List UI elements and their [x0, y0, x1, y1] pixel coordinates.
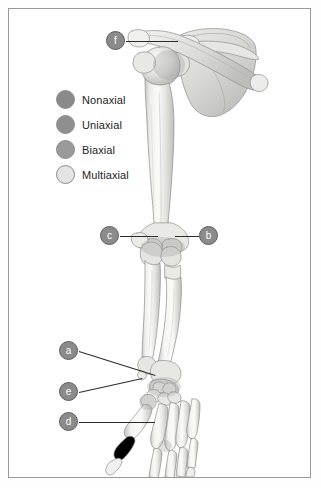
- callout-marker-d[interactable]: d: [59, 412, 78, 431]
- callout-marker-b[interactable]: b: [199, 226, 218, 245]
- legend-item-multiaxial: Multiaxial: [56, 165, 166, 184]
- legend-label-uniaxial: Uniaxial: [82, 119, 122, 131]
- leader-line-c: [120, 236, 158, 237]
- legend-swatch-uniaxial: [56, 115, 75, 134]
- legend-item-biaxial: Biaxial: [56, 140, 166, 159]
- legend-label-biaxial: Biaxial: [82, 144, 115, 156]
- legend-label-nonaxial: Nonaxial: [82, 94, 126, 106]
- legend-swatch-nonaxial: [56, 90, 75, 109]
- skeleton-illustration: [9, 9, 310, 477]
- leader-line-d: [79, 422, 155, 423]
- legend-item-nonaxial: Nonaxial: [56, 90, 166, 109]
- legend-label-multiaxial: Multiaxial: [82, 169, 129, 181]
- leader-line-b: [175, 236, 199, 237]
- callout-marker-c[interactable]: c: [100, 226, 119, 245]
- legend-swatch-biaxial: [56, 140, 75, 159]
- legend-swatch-multiaxial: [56, 165, 75, 184]
- callout-marker-a[interactable]: a: [59, 341, 78, 360]
- figure-frame: Nonaxial Uniaxial Biaxial Multiaxial f c…: [0, 0, 321, 488]
- legend-item-uniaxial: Uniaxial: [56, 115, 166, 134]
- joint-classification-legend: Nonaxial Uniaxial Biaxial Multiaxial: [56, 90, 166, 190]
- leader-line-f: [126, 41, 178, 42]
- callout-marker-e[interactable]: e: [59, 382, 78, 401]
- callout-marker-f[interactable]: f: [106, 31, 125, 50]
